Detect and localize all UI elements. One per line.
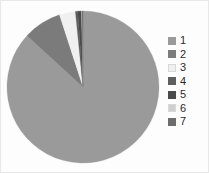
legend-item-1[interactable]: 1 [168, 34, 206, 48]
legend-item-7[interactable]: 7 [168, 115, 206, 129]
legend-swatch-6-icon [168, 104, 176, 112]
legend-label-6: 6 [180, 103, 186, 114]
legend-swatch-4-icon [168, 77, 176, 85]
legend-label-5: 5 [180, 89, 186, 100]
legend-item-3[interactable]: 3 [168, 61, 206, 75]
legend-item-4[interactable]: 4 [168, 75, 206, 89]
pie-slice-group [7, 11, 159, 163]
legend-swatch-2-icon [168, 50, 176, 58]
legend-label-2: 2 [180, 49, 186, 60]
legend-item-2[interactable]: 2 [168, 48, 206, 62]
legend-label-3: 3 [180, 62, 186, 73]
chart-plot-area [0, 0, 160, 173]
legend-item-6[interactable]: 6 [168, 102, 206, 116]
legend-swatch-5-icon [168, 91, 176, 99]
chart-legend: 1 2 3 4 5 6 7 [168, 34, 206, 129]
legend-label-7: 7 [180, 116, 186, 127]
pie-chart-screenshot: 1 2 3 4 5 6 7 [0, 0, 209, 173]
legend-swatch-7-icon [168, 118, 176, 126]
legend-swatch-3-icon [168, 64, 176, 72]
legend-swatch-1-icon [168, 37, 176, 45]
legend-item-5[interactable]: 5 [168, 88, 206, 102]
legend-label-1: 1 [180, 35, 186, 46]
pie-chart-graphic [0, 0, 160, 173]
legend-label-4: 4 [180, 76, 186, 87]
